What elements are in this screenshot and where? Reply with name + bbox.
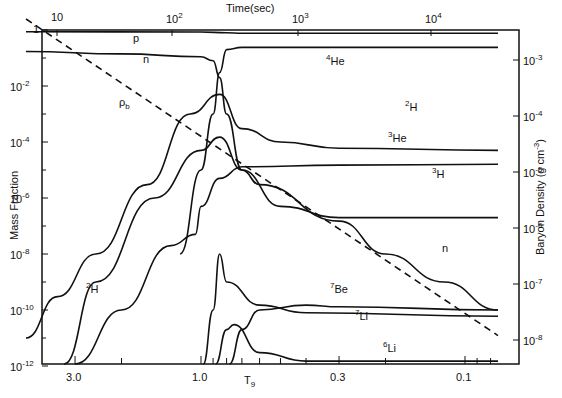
y2-tick-label: 10-8 xyxy=(523,334,542,347)
plot-frame xyxy=(42,30,519,364)
curve-2H xyxy=(26,94,498,338)
curves xyxy=(26,19,498,364)
x-tick-label: 3.0 xyxy=(66,372,81,383)
y2-tick-label: 10-4 xyxy=(523,110,542,123)
curve-label-5: 3H xyxy=(432,167,444,180)
curve-label-0: p xyxy=(133,33,139,44)
curve-label-4: 3He xyxy=(388,131,407,144)
y-tick-label: 10-8 xyxy=(10,248,29,261)
bottom-axis-title-sub: 9 xyxy=(251,380,255,389)
x-top-tick-label: 104 xyxy=(425,12,442,25)
bottom-axis-title: T9 xyxy=(244,374,255,389)
right-axis-title-sup: -3 xyxy=(532,143,541,150)
right-axis-title-end: ) xyxy=(534,139,546,143)
chart-canvas xyxy=(0,0,562,398)
curve-label-1: n xyxy=(143,54,149,65)
curve-label-3: 2H xyxy=(405,100,417,113)
right-axis-title: Baryon Density (g cm-3) xyxy=(532,139,546,255)
x-top-tick-label: 10 xyxy=(51,12,63,23)
curve-label-11: 6Li xyxy=(383,341,396,354)
y-tick-label: 10-4 xyxy=(10,136,29,149)
y-tick-label: 10-2 xyxy=(10,80,29,93)
top-axis-title: Time(sec) xyxy=(226,2,274,14)
curve-n xyxy=(26,52,498,311)
left-axis-title: Mass Fraction xyxy=(8,171,20,240)
curve-6Li xyxy=(216,325,498,364)
curve-label-9: 7Be xyxy=(330,282,348,295)
y-tick-label: 1 xyxy=(33,24,39,35)
x-tick-label: 1.0 xyxy=(192,372,207,383)
curve-label-6: n xyxy=(442,243,448,254)
bottom-axis-title-text: T xyxy=(244,374,251,386)
curve-label-10: 7Li xyxy=(355,309,368,322)
y2-tick-label: 10-7 xyxy=(523,278,542,291)
right-axis-title-text: Baryon Density (g cm xyxy=(534,150,546,255)
x-tick-label: 0.1 xyxy=(456,372,471,383)
curve-label-8: 2H xyxy=(86,282,98,295)
curve-p xyxy=(26,32,498,34)
x-top-tick-label: 102 xyxy=(166,12,183,25)
y-tick-label: 10-10 xyxy=(10,304,34,317)
curve-label-7: ρb xyxy=(119,97,130,111)
x-top-tick-label: 103 xyxy=(292,12,309,25)
y2-tick-label: 10-3 xyxy=(523,54,542,67)
x-tick-label: 0.3 xyxy=(330,372,345,383)
curve-label-2: 4He xyxy=(326,54,345,67)
y-tick-label: 10-12 xyxy=(10,360,34,373)
